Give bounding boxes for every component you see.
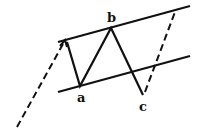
label-a: a <box>77 90 86 105</box>
label-c: c <box>139 99 147 114</box>
zigzag-channel-diagram: a b c <box>0 0 200 130</box>
zigzag-path <box>67 28 143 95</box>
incoming-dashed-line <box>17 44 63 127</box>
lower-channel-line <box>58 56 190 92</box>
label-b: b <box>107 10 116 25</box>
outgoing-dashed-line <box>145 12 175 92</box>
